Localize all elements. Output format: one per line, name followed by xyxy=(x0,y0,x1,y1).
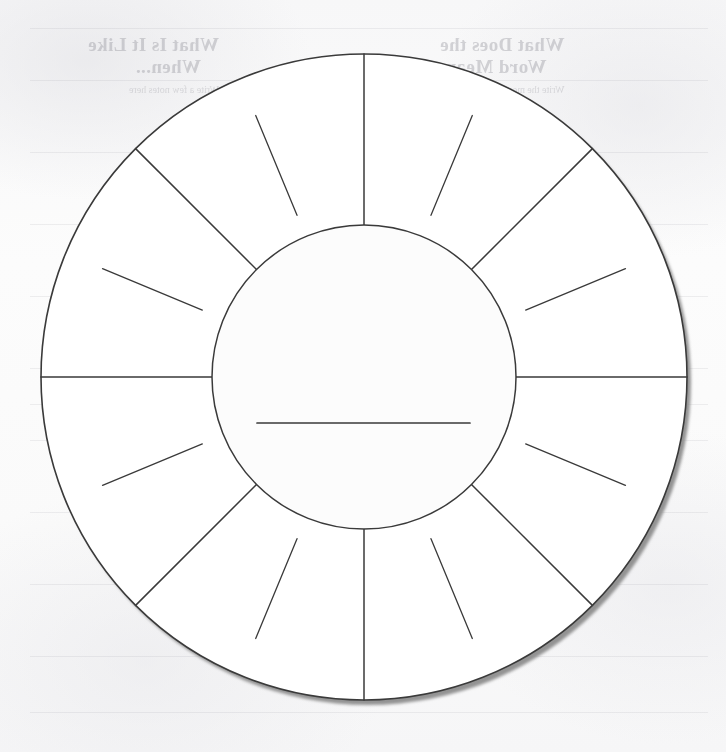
blank-wheel-diagram xyxy=(0,0,726,752)
wheel-inner-circle xyxy=(212,225,516,529)
worksheet-page: What Is It LikeWhen...Write a few notes … xyxy=(0,0,726,752)
inner-circle-outline xyxy=(212,225,516,529)
